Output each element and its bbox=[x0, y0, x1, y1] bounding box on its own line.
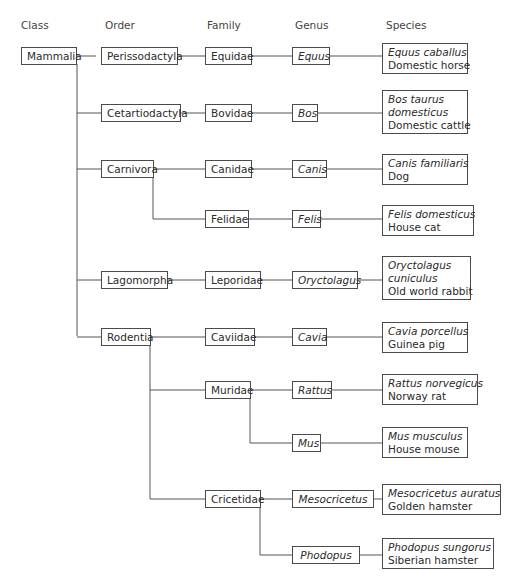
order-node-carnivora: Carnivora bbox=[101, 160, 154, 178]
species-node-dog: Canis familiaris Dog bbox=[382, 154, 468, 185]
species-node-old-world-rabbit: Oryctolagus cuniculus Old world rabbit bbox=[382, 256, 471, 300]
species-common-name: Guinea pig bbox=[388, 338, 462, 351]
genus-node-oryctolagus: Oryctolagus bbox=[292, 271, 358, 289]
species-common-name: Old world rabbit bbox=[388, 285, 465, 298]
species-scientific-name: Mesocricetus auratus bbox=[388, 487, 495, 500]
header-order: Order bbox=[105, 19, 135, 31]
order-node-cetartiodactyla: Cetartiodactyla bbox=[101, 104, 181, 122]
species-scientific-name: Mus musculus bbox=[388, 430, 462, 443]
species-common-name: Golden hamster bbox=[388, 500, 495, 513]
species-common-name: House mouse bbox=[388, 443, 462, 456]
species-node-domestic-cattle: Bos taurus domesticus Domestic cattle bbox=[382, 90, 468, 134]
header-genus: Genus bbox=[295, 19, 328, 31]
genus-node-cavia: Cavia bbox=[292, 328, 327, 346]
family-node-leporidae: Leporidae bbox=[205, 271, 261, 289]
genus-node-canis: Canis bbox=[292, 160, 327, 178]
species-scientific-name: Oryctolagus bbox=[388, 259, 465, 272]
genus-node-bos: Bos bbox=[292, 104, 318, 122]
family-node-equidae: Equidae bbox=[205, 47, 252, 65]
species-node-siberian-hamster: Phodopus sungorus Siberian hamster bbox=[382, 538, 494, 569]
order-node-perissodactyla: Perissodactyla bbox=[101, 47, 178, 65]
family-node-felidae: Felidae bbox=[205, 210, 249, 228]
genus-node-equus: Equus bbox=[292, 47, 330, 65]
species-node-domestic-horse: Equus caballus Domestic horse bbox=[382, 43, 468, 74]
genus-node-felis: Felis bbox=[292, 210, 321, 228]
order-node-lagomorpha: Lagomorpha bbox=[101, 271, 168, 289]
species-node-house-cat: Felis domesticus House cat bbox=[382, 205, 474, 236]
header-species: Species bbox=[386, 19, 426, 31]
species-scientific-name-cont: cuniculus bbox=[388, 272, 465, 285]
species-scientific-name: Felis domesticus bbox=[388, 208, 468, 221]
species-scientific-name: Cavia porcellus bbox=[388, 325, 462, 338]
header-class: Class bbox=[21, 19, 49, 31]
species-common-name: House cat bbox=[388, 221, 468, 234]
genus-node-mesocricetus: Mesocricetus bbox=[292, 490, 374, 508]
family-node-muridae: Muridae bbox=[205, 381, 251, 399]
species-common-name: Dog bbox=[388, 170, 462, 183]
species-node-golden-hamster: Mesocricetus auratus Golden hamster bbox=[382, 484, 501, 515]
species-scientific-name: Bos taurus bbox=[388, 93, 462, 106]
species-node-norway-rat: Rattus norvegicus Norway rat bbox=[382, 374, 478, 405]
species-common-name: Siberian hamster bbox=[388, 554, 488, 567]
header-family: Family bbox=[207, 19, 241, 31]
class-node-mammalia: Mammalia bbox=[21, 47, 77, 65]
order-node-rodentia: Rodentia bbox=[101, 328, 151, 346]
species-common-name: Domestic horse bbox=[388, 59, 462, 72]
species-scientific-name-cont: domesticus bbox=[388, 106, 462, 119]
species-node-house-mouse: Mus musculus House mouse bbox=[382, 427, 468, 458]
genus-node-mus: Mus bbox=[292, 434, 321, 452]
family-node-bovidae: Bovidae bbox=[205, 104, 252, 122]
species-node-guinea-pig: Cavia porcellus Guinea pig bbox=[382, 322, 468, 353]
genus-node-phodopus: Phodopus bbox=[292, 546, 360, 564]
species-common-name: Norway rat bbox=[388, 390, 472, 403]
genus-node-rattus: Rattus bbox=[292, 381, 332, 399]
species-scientific-name: Equus caballus bbox=[388, 46, 462, 59]
species-common-name: Domestic cattle bbox=[388, 119, 462, 132]
species-scientific-name: Phodopus sungorus bbox=[388, 541, 488, 554]
species-scientific-name: Rattus norvegicus bbox=[388, 377, 472, 390]
family-node-caviidae: Caviidae bbox=[205, 328, 255, 346]
family-node-canidae: Canidae bbox=[205, 160, 252, 178]
species-scientific-name: Canis familiaris bbox=[388, 157, 462, 170]
family-node-cricetidae: Cricetidae bbox=[205, 490, 261, 508]
